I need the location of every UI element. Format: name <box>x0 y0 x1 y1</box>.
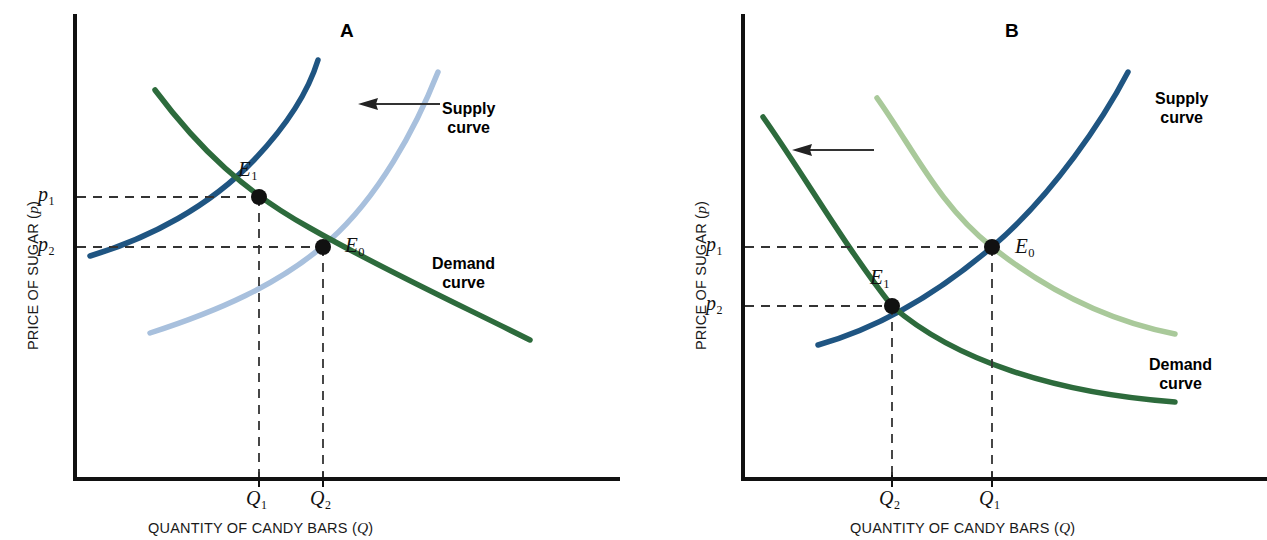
demand-curve-shifted <box>763 117 1175 402</box>
equilibrium-point-e0 <box>315 239 331 255</box>
equilibrium-point-e0 <box>984 239 1000 255</box>
panel-b-axes <box>741 14 1267 481</box>
panel-b: B Supply curve Demand curve E0 E1 p1 p2 … <box>634 0 1267 540</box>
x-tick-label-q1-b: Q1 <box>979 487 999 510</box>
demand-curve-label-line2: curve <box>1149 374 1212 393</box>
point-label-e1-a: E1 <box>238 157 257 182</box>
x-tick-label-q1-a: Q1 <box>246 487 266 510</box>
supply-curve-label-a: Supply curve <box>442 99 495 137</box>
y-axis-title-a: PRICE OF SUGAR (p) <box>24 201 42 350</box>
economics-supply-demand-figure: A Supply curve Demand curve E1 E0 p1 p2 … <box>0 0 1267 540</box>
demand-curve-label-line2: curve <box>432 273 495 292</box>
x-tick-label-q2-a: Q2 <box>310 487 330 510</box>
supply-curve-shifted <box>90 60 318 256</box>
x-tick-label-q2-b: Q2 <box>879 487 899 510</box>
y-axis-title-b: PRICE OF SUGAR (p) <box>692 201 710 350</box>
demand-curve-label-b: Demand curve <box>1149 355 1212 393</box>
point-label-e0-b: E0 <box>1015 234 1034 259</box>
supply-curve-label-line2: curve <box>1155 108 1208 127</box>
demand-curve-label-a: Demand curve <box>432 254 495 292</box>
demand-curve-label-line1: Demand <box>1149 355 1212 374</box>
point-label-e1-b: E1 <box>870 265 889 290</box>
panel-letter-a: A <box>340 20 354 42</box>
panel-letter-b: B <box>1005 20 1019 42</box>
panel-b-guidelines <box>745 247 992 477</box>
panel-a-guidelines <box>77 197 323 477</box>
equilibrium-point-e1 <box>884 298 900 314</box>
x-axis-title-a: QUANTITY OF CANDY BARS (Q) <box>148 519 373 537</box>
demand-curve-label-line1: Demand <box>432 254 495 273</box>
panel-a: A Supply curve Demand curve E1 E0 p1 p2 … <box>0 0 633 540</box>
demand-shift-arrow <box>792 144 874 156</box>
equilibrium-point-e1 <box>251 189 267 205</box>
panel-b-plot <box>634 0 1267 540</box>
supply-curve-label-line1: Supply <box>442 99 495 118</box>
x-axis-title-b: QUANTITY OF CANDY BARS (Q) <box>850 519 1075 537</box>
supply-curve-label-line2: curve <box>442 118 495 137</box>
panel-a-plot <box>0 0 633 540</box>
supply-curve-label-b: Supply curve <box>1155 89 1208 127</box>
point-label-e0-a: E0 <box>345 233 364 258</box>
supply-curve-label-line1: Supply <box>1155 89 1208 108</box>
